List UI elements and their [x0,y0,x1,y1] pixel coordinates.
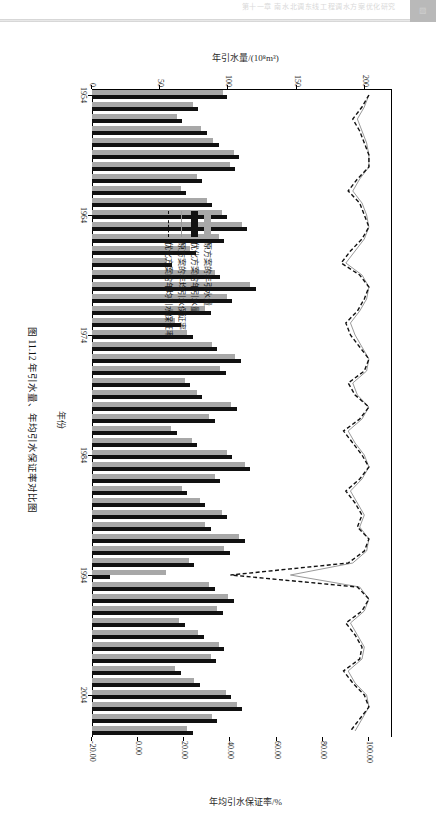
legend-label: 优化方案的年引水量 [188,242,201,314]
y-right-tick-label: 40.00 [226,741,235,775]
x-tick-mark [88,455,92,456]
legend: 原方案的年引水量优化方案的年引水量原方案的年均引水保证率优化方案的年均引水保证率 [162,211,214,338]
header-running-title: 第十一章 南水北调东线工程调水方案优化研究 [242,1,396,11]
x-tick-mark [88,335,92,336]
legend-swatch-icon [204,211,211,237]
legend-item: 原方案的年均引水保证率 [175,211,188,338]
y-right-tick-label: 60.00 [272,741,281,775]
legend-label: 优化方案的年均引水保证率 [162,242,175,338]
legend-label: 原方案的年均引水保证率 [175,242,188,330]
line-optimized-rate [230,95,368,731]
x-tick-label: 1984 [79,447,88,463]
y-right-tick-label: 100.00 [364,741,373,775]
x-tick-mark [88,95,92,96]
legend-swatch-icon [181,211,182,237]
legend-item: 优化方案的年引水量 [188,211,201,338]
y-right-tick-label: 80.00 [318,741,327,775]
y-left-tick-label: 150 [292,65,301,87]
x-tick-label: 1994 [79,567,88,583]
y-right-tick-label: 20.00 [180,741,189,775]
legend-item: 原方案的年引水量 [201,211,214,338]
page-corner-marker: ▨ [410,0,436,22]
figure-caption: 图 11.12 年引水量、年均引水保证率对比图 [26,25,40,815]
x-tick-mark [88,215,92,216]
legend-swatch-icon [168,211,169,237]
y-left-tick-label: 50 [156,65,165,87]
x-tick-label: 1954 [79,87,88,103]
header-rule [0,19,436,22]
y-left-tick-label: 200 [360,65,369,87]
x-tick-mark [88,695,92,696]
x-tick-label: 1964 [79,207,88,223]
y-left-tick-label: 0 [88,65,97,87]
legend-item: 优化方案的年均引水保证率 [162,211,175,338]
line-original-rate [290,95,368,731]
y-right-tick-label: 0.00 [134,741,143,775]
legend-swatch-icon [191,211,198,237]
x-tick-mark [88,575,92,576]
x-tick-label: 2004 [79,687,88,703]
lines-layer [8,25,428,815]
figure-rotated-container: 年份 年引水量/(10⁸m³) 年均引水保证率/% 19541964197419… [8,25,428,815]
page-scan: 第十一章 南水北调东线工程调水方案优化研究 ▨ 年份 年引水量/(10⁸m³) … [0,0,436,840]
legend-label: 原方案的年引水量 [201,242,214,306]
page-header: 第十一章 南水北调东线工程调水方案优化研究 ▨ [0,0,436,22]
y-right-tick-label: -20.00 [88,741,97,775]
x-tick-label: 1974 [79,327,88,343]
corner-glyph: ▨ [410,0,436,22]
y-left-tick-label: 100 [224,65,233,87]
figure-inner: 年份 年引水量/(10⁸m³) 年均引水保证率/% 19541964197419… [8,25,428,815]
